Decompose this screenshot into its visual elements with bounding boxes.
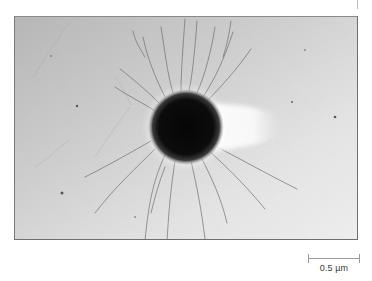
dark-particle — [148, 89, 224, 165]
micrograph-svg — [15, 17, 358, 240]
scale-bar-label: 0.5 µm — [308, 263, 360, 273]
scale-bar — [308, 253, 360, 263]
micrograph-image — [14, 16, 358, 240]
corner-tick-mark — [357, 0, 358, 9]
scale-bar-right-cap — [359, 254, 360, 263]
scale-bar-line — [308, 258, 359, 259]
